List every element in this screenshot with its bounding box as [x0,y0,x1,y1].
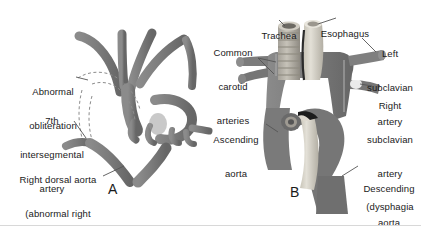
label-trachea: Trachea [252,8,306,64]
label-right-dorsal-aorta: Right dorsal aorta (abnormal right subcl… [4,152,112,226]
panel-letter-a: A [108,181,117,197]
label-ascending-aorta: Ascending aorta [206,112,266,202]
label-line: Right [362,100,418,111]
esophagus-distal [299,113,319,190]
bottom-divider [0,225,421,226]
label-line: 7th [6,115,98,126]
label-line: Ascending [206,134,266,145]
label-line: aorta [206,168,266,179]
anatomical-figure: Abnormal obliteration 7th intersegmental… [0,0,421,226]
left-dorsal-aorta [138,148,166,182]
label-line: Left [362,48,418,59]
left-upper-branch [122,34,124,86]
right-lateral-limb [186,40,193,86]
label-line: Right dorsal aorta [4,174,112,185]
label-line: Trachea [252,30,306,41]
label-line: Descending [358,183,420,194]
label-line: (abnormal right [4,208,112,219]
label-descending-aorta: Descending aorta [358,161,420,226]
label-line: Common [206,47,260,58]
arch-loop-lumen [165,111,187,127]
label-line: subclavian [362,134,418,145]
label-line: carotid [206,81,260,92]
leader-descending-aorta [342,166,358,176]
descending-aorta [316,176,348,214]
arch-inner-shade [149,113,167,135]
panel-letter-b: B [290,184,299,200]
